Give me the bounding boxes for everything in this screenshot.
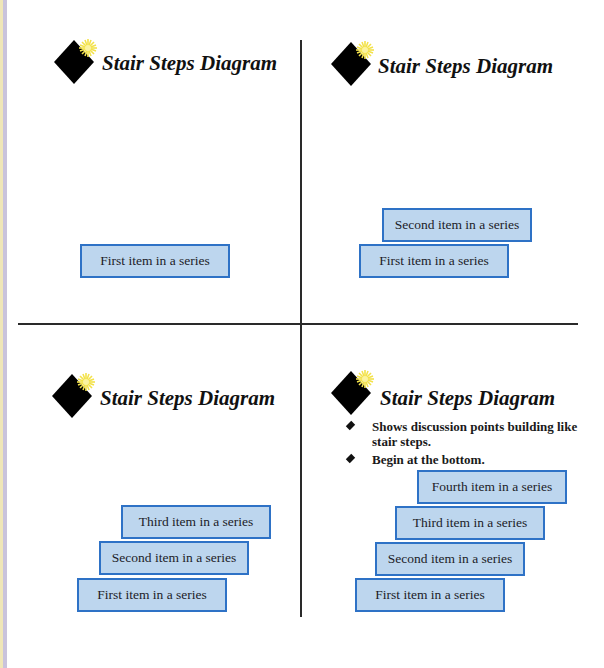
diamond-star-logo-icon [52, 372, 96, 420]
diamond-bullet-icon [346, 454, 355, 463]
diamond-star-logo-icon [331, 40, 375, 88]
step-box-second: Second item in a series [99, 541, 249, 575]
bullet-item: Shows discussion points building like st… [342, 419, 592, 449]
bullet-item: Begin at the bottom. [342, 452, 592, 467]
step-box-first: First item in a series [80, 244, 230, 278]
step-box-second: Second item in a series [382, 208, 532, 242]
step-box-second: Second item in a series [375, 542, 525, 576]
step-box-fourth: Fourth item in a series [417, 470, 567, 504]
bullet-list: Shows discussion points building like st… [342, 419, 592, 470]
bullet-text: Begin at the bottom. [372, 452, 485, 467]
left-edge-strip-lavender [3, 0, 7, 668]
diamond-star-logo-icon [331, 369, 375, 417]
bullet-text: Shows discussion points building like st… [372, 419, 577, 449]
step-box-third: Third item in a series [121, 505, 271, 539]
horizontal-divider [18, 323, 578, 325]
step-box-first: First item in a series [355, 578, 505, 612]
diamond-bullet-icon [346, 421, 355, 430]
panel-title: Stair Steps Diagram [100, 388, 275, 409]
step-box-first: First item in a series [77, 578, 227, 612]
vertical-divider [300, 40, 302, 617]
diamond-star-logo-icon [54, 38, 98, 86]
step-box-third: Third item in a series [395, 506, 545, 540]
panel-title: Stair Steps Diagram [378, 56, 553, 77]
step-box-first: First item in a series [359, 244, 509, 278]
panel-title: Stair Steps Diagram [380, 388, 555, 409]
panel-title: Stair Steps Diagram [102, 53, 277, 74]
